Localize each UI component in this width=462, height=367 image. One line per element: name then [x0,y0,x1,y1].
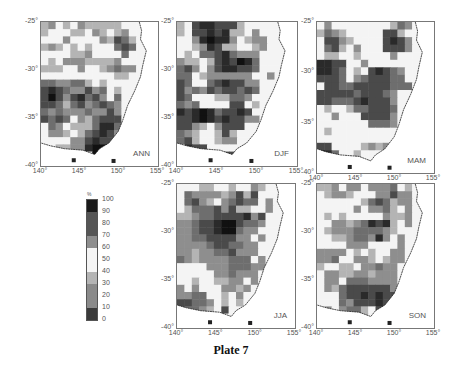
colorbar-tick-label: 30 [102,279,110,286]
colorbar-tick-label: 0 [102,315,106,322]
lon-tick-label: 145° [206,167,226,174]
colorbar-unit: % [87,191,91,197]
colorbar-tick-label: 60 [102,243,110,250]
lon-tick-label: 140° [166,167,186,174]
lon-tick-label: 145° [345,174,365,181]
map-panel-son: SON [316,183,435,329]
lat-tick-label: -30° [18,65,38,72]
colorbar-band [87,260,97,272]
season-label: DJF [274,149,289,158]
lon-tick-label: 145° [205,329,225,336]
colorbar-tick-label: 90 [102,207,110,214]
lat-tick-label: -25° [18,17,38,24]
lon-tick-label: 140° [306,329,326,336]
lat-tick-label: -30° [294,67,314,74]
colorbar-band [87,272,97,284]
lon-tick-label: 150° [108,167,128,174]
lat-tick-label: -35° [154,113,174,120]
colorbar-tick-label: 40 [102,267,110,274]
colorbar-band [87,296,97,308]
map-panel-ann: ANN [40,21,159,167]
lon-tick-label: 155° [423,329,443,336]
map-panel-mam: MAM [316,21,435,174]
lat-tick-label: -25° [294,17,314,24]
colorbar-tick-label: 100 [102,195,114,202]
season-label: MAM [407,156,426,165]
colorbar-band [87,248,97,260]
lon-tick-label: 140° [30,167,50,174]
lon-tick-label: 150° [245,329,265,336]
lon-tick-label: 150° [384,174,404,181]
lat-tick-label: -25° [294,179,314,186]
season-label: ANN [133,149,150,158]
lon-tick-label: 150° [246,167,266,174]
lat-tick-label: -35° [294,118,314,125]
lon-tick-label: 145° [69,167,89,174]
season-label: JJA [274,311,287,320]
colorbar-tick-label: 80 [102,219,110,226]
colorbar [86,199,98,321]
colorbar-band [87,200,97,212]
map-panel-jja: JJA [176,183,296,329]
map-panel-djf: DJF [176,21,298,167]
season-label: SON [409,311,426,320]
colorbar-band [87,284,97,296]
lon-tick-label: 155° [284,329,304,336]
colorbar-tick-label: 70 [102,231,110,238]
lat-tick-label: -25° [154,17,174,24]
lon-tick-label: 150° [384,329,404,336]
lat-tick-label: -30° [154,227,174,234]
lat-tick-label: -35° [154,275,174,282]
colorbar-band [87,212,97,224]
colorbar-band [87,236,97,248]
plate-caption: Plate 7 [0,343,462,358]
colorbar-tick-label: 20 [102,291,110,298]
lat-tick-label: -25° [154,179,174,186]
lon-tick-label: 155° [423,174,443,181]
lat-tick-label: -35° [18,113,38,120]
lon-tick-label: 155° [147,167,167,174]
lon-tick-label: 145° [345,329,365,336]
lat-tick-label: -35° [294,275,314,282]
lon-tick-label: 140° [166,329,186,336]
colorbar-tick-label: 50 [102,255,110,262]
colorbar-band [87,224,97,236]
colorbar-band [87,308,97,320]
lat-tick-label: -30° [154,65,174,72]
lat-tick-label: -30° [294,227,314,234]
colorbar-tick-label: 10 [102,303,110,310]
